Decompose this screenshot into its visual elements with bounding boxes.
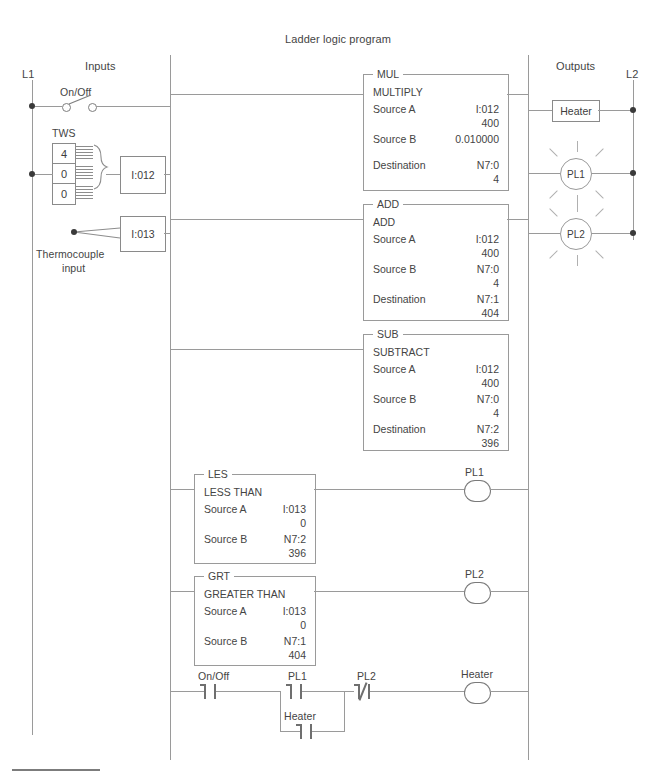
grt-row1-operand: N7:1 bbox=[284, 635, 306, 647]
grt-row0-operand: I:013 bbox=[283, 605, 306, 617]
rung4-wire-mid bbox=[314, 489, 464, 490]
mul-row2-label: Destination bbox=[373, 159, 426, 171]
sub-row1-operand: N7:0 bbox=[477, 393, 499, 405]
grt-row0-label: Source A bbox=[204, 605, 247, 617]
add-row2-operand: N7:1 bbox=[477, 293, 499, 305]
output-heater[interactable]: Heater bbox=[552, 100, 600, 122]
mul-row2-operand: N7:0 bbox=[477, 159, 499, 171]
grt-row1-value: 404 bbox=[288, 649, 306, 661]
output-lamp-pl2[interactable]: PL2 bbox=[560, 218, 592, 250]
instruction-block-grt[interactable]: GRT GREATER THAN Source A I:013 0 Source… bbox=[194, 576, 316, 666]
branch-wire-left bbox=[280, 731, 300, 732]
out-wire-pl1-left bbox=[528, 173, 560, 174]
branch-vline-left bbox=[280, 691, 281, 732]
les-row1-label: Source B bbox=[204, 533, 247, 545]
mul-row1-operand: 0.010000 bbox=[455, 133, 499, 145]
coil-heater-label: Heater bbox=[461, 668, 493, 680]
sub-row1-label: Source B bbox=[373, 393, 416, 405]
sub-row2-operand: N7:2 bbox=[477, 423, 499, 435]
grt-coil-label: PL2 bbox=[465, 568, 484, 580]
add-row0-operand: I:012 bbox=[476, 233, 499, 245]
mul-tag: MUL bbox=[373, 68, 403, 80]
add-row2-value: 404 bbox=[481, 307, 499, 319]
rung1-wire-left bbox=[170, 94, 363, 95]
rung1-wire-right bbox=[507, 94, 528, 95]
pl2-ray-s bbox=[577, 255, 578, 266]
branch-wire-right bbox=[312, 731, 345, 732]
rung5-wire-left bbox=[170, 591, 194, 592]
sub-name: SUBTRACT bbox=[373, 346, 430, 358]
add-row0-value: 400 bbox=[481, 247, 499, 259]
rung5-wire-mid bbox=[314, 591, 464, 592]
rung4-wire-right bbox=[490, 489, 528, 490]
thermocouple-junction-dot bbox=[71, 229, 77, 235]
contact-pl1-label: PL1 bbox=[288, 670, 307, 682]
branch-vline-right bbox=[344, 691, 345, 732]
grt-row0-value: 0 bbox=[300, 619, 306, 631]
contact-onoff-label: On/Off bbox=[198, 670, 229, 682]
les-row1-value: 396 bbox=[288, 547, 306, 559]
add-row1-operand: N7:0 bbox=[477, 263, 499, 275]
les-row1-operand: N7:2 bbox=[284, 533, 306, 545]
rung6-wire-c bbox=[302, 691, 354, 692]
sub-row0-value: 400 bbox=[481, 377, 499, 389]
rung5-wire-right bbox=[490, 591, 528, 592]
les-row0-label: Source A bbox=[204, 503, 247, 515]
grt-row1-label: Source B bbox=[204, 635, 247, 647]
add-row2-label: Destination bbox=[373, 293, 426, 305]
mul-row0-value: 400 bbox=[481, 117, 499, 129]
grt-name: GREATER THAN bbox=[204, 588, 285, 600]
pl2-ray-n bbox=[577, 201, 578, 212]
grt-tag: GRT bbox=[204, 570, 234, 582]
rung6-wire-a bbox=[170, 691, 204, 692]
les-row0-value: 0 bbox=[300, 517, 306, 529]
coil-heater[interactable] bbox=[464, 682, 490, 702]
mul-name: MULTIPLY bbox=[373, 86, 423, 98]
les-tag: LES bbox=[204, 468, 232, 480]
rung6-wire-right bbox=[490, 691, 528, 692]
thermocouple-label-line2: input bbox=[62, 262, 85, 274]
add-row1-label: Source B bbox=[373, 263, 416, 275]
sub-tag: SUB bbox=[373, 328, 403, 340]
sub-row0-label: Source A bbox=[373, 363, 416, 375]
mul-row0-operand: I:012 bbox=[476, 103, 499, 115]
instruction-block-add[interactable]: ADD ADD Source A I:012 400 Source B N7:0… bbox=[363, 204, 509, 321]
les-coil-label: PL1 bbox=[465, 466, 484, 478]
rung2-wire-left bbox=[170, 219, 363, 220]
footer-rule bbox=[12, 769, 100, 771]
coil-pl2[interactable] bbox=[464, 582, 490, 602]
add-name: ADD bbox=[373, 216, 395, 228]
instruction-block-sub[interactable]: SUB SUBTRACT Source A I:012 400 Source B… bbox=[363, 334, 509, 451]
junction-dot-l2-heater bbox=[630, 107, 636, 113]
les-row0-operand: I:013 bbox=[283, 503, 306, 515]
coil-pl1[interactable] bbox=[464, 480, 490, 500]
branch-contact-heater-label: Heater bbox=[284, 710, 316, 722]
rung6-wire-d bbox=[370, 691, 465, 692]
sub-row1-value: 4 bbox=[493, 407, 499, 419]
add-row1-value: 4 bbox=[493, 277, 499, 289]
mul-row1-label: Source B bbox=[373, 133, 416, 145]
output-lamp-pl1[interactable]: PL1 bbox=[560, 158, 592, 190]
out-wire-pl2-left bbox=[528, 233, 560, 234]
instruction-block-les[interactable]: LES LESS THAN Source A I:013 0 Source B … bbox=[194, 474, 316, 564]
rung2-wire-right bbox=[507, 219, 528, 220]
mul-row2-value: 4 bbox=[493, 173, 499, 185]
junction-dot-l2-pl2 bbox=[630, 230, 636, 236]
rung4-wire-left bbox=[170, 489, 194, 490]
instruction-block-mul[interactable]: MUL MULTIPLY Source A I:012 400 Source B… bbox=[363, 74, 509, 191]
pl1-ray-n bbox=[577, 141, 578, 152]
add-tag: ADD bbox=[373, 198, 403, 210]
out-wire-heater-left bbox=[528, 110, 552, 111]
mul-row0-label: Source A bbox=[373, 103, 416, 115]
add-row0-label: Source A bbox=[373, 233, 416, 245]
les-name: LESS THAN bbox=[204, 486, 262, 498]
sub-row2-label: Destination bbox=[373, 423, 426, 435]
thermocouple-label-line1: Thermocouple bbox=[36, 248, 104, 260]
rung3-wire-left bbox=[170, 349, 363, 350]
sub-row2-value: 396 bbox=[481, 437, 499, 449]
ladder-diagram: Ladder logic program Inputs Outputs L1 L… bbox=[0, 0, 666, 772]
contact-pl2-label: PL2 bbox=[357, 670, 376, 682]
rung6-wire-b bbox=[216, 691, 280, 692]
sub-row0-operand: I:012 bbox=[476, 363, 499, 375]
junction-dot-l2-pl1 bbox=[630, 170, 636, 176]
